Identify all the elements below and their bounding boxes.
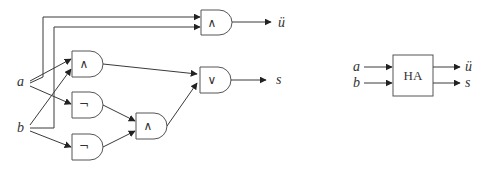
half-adder-block: a b HA ü s [353, 55, 472, 96]
and-gate-carry: ∧ [201, 10, 232, 35]
block-input-b-label: b [353, 75, 360, 90]
or-gate-sum: ∨ [200, 67, 231, 93]
not-symbol: ¬ [79, 140, 89, 154]
input-a-label: a [17, 74, 24, 89]
block-output-carry-label: ü [465, 59, 472, 74]
wire-b-to-carry-and [30, 27, 200, 128]
wire-not1-to-and2 [103, 105, 135, 121]
half-adder-diagram: a b ∧ ü ∧ ¬ ¬ [0, 0, 491, 171]
and-gate-1: ∧ [72, 51, 103, 77]
or-symbol: ∨ [208, 73, 217, 87]
wire-and2-to-or [167, 83, 197, 126]
ha-label: HA [404, 68, 423, 83]
output-carry-label: ü [278, 15, 285, 30]
not-symbol: ¬ [79, 98, 89, 112]
wire-a-to-not1 [30, 86, 71, 104]
not-gate-1: ¬ [72, 92, 103, 118]
block-output-sum-label: s [465, 75, 471, 90]
wire-b-to-not2 [30, 131, 71, 147]
not-gate-2: ¬ [72, 134, 103, 160]
output-sum-label: s [276, 72, 282, 87]
input-b-label: b [17, 120, 24, 135]
gate-circuit: a b ∧ ü ∧ ¬ ¬ [17, 10, 285, 160]
and-symbol: ∧ [144, 119, 153, 133]
and-symbol: ∧ [208, 16, 217, 30]
and-symbol: ∧ [80, 57, 89, 71]
wire-and1-to-or [103, 64, 197, 74]
wire-not2-to-and2 [103, 131, 135, 147]
and-gate-2: ∧ [136, 113, 167, 139]
block-input-a-label: a [353, 59, 360, 74]
